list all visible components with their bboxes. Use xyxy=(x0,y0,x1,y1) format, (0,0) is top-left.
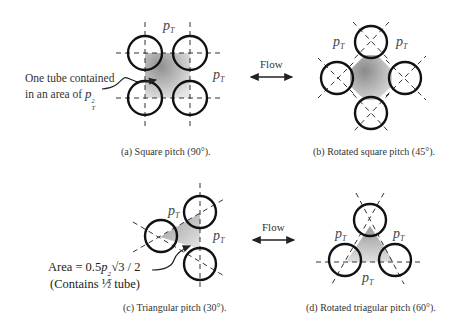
panel-a-square-pitch xyxy=(102,22,222,128)
pitch-label-a-right: pT xyxy=(213,67,224,84)
caption-b: (b) Rotated square pitch (45°). xyxy=(313,146,435,157)
pitch-label-b-left: pT xyxy=(333,34,344,51)
pitch-label-d-right: pT xyxy=(393,226,404,243)
pitch-label-d-bottom: pT xyxy=(362,270,373,287)
pitch-label-d-left: pT xyxy=(335,226,346,243)
annotation-a-line2: in an area of p2T xyxy=(25,86,95,111)
caption-a: (a) Square pitch (90°). xyxy=(121,146,211,157)
caption-c: (c) Triangular pitch (30°). xyxy=(123,302,226,313)
unit-cell-shading xyxy=(350,55,392,100)
flow-label-bottom: Flow xyxy=(262,221,285,233)
area-note: (Contains ½ tube) xyxy=(50,277,140,292)
pitch-label-a-top: pT xyxy=(163,18,174,35)
pitch-label-b-right: pT xyxy=(396,34,407,51)
flow-label-top: Flow xyxy=(260,58,283,70)
unit-cell-shading xyxy=(145,53,190,98)
pitch-label-c-top: pT xyxy=(168,203,179,220)
unit-cell-shading xyxy=(346,226,394,262)
unit-cell-shading xyxy=(160,213,200,249)
pitch-label-c-right: pT xyxy=(213,228,224,245)
annotation-a-line1: One tube contained xyxy=(25,72,114,84)
caption-d: (d) Rotated triagular pitch (60°). xyxy=(306,302,436,313)
